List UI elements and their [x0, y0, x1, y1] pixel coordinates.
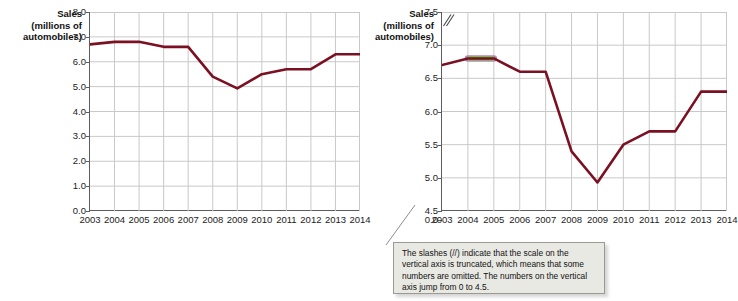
- left-y-tick-label: 3.0: [73, 132, 86, 142]
- left-x-tick-label: 2003: [79, 215, 100, 225]
- right-y-tick-label: 6.0: [425, 107, 438, 117]
- left-x-tick-label: 2013: [325, 215, 346, 225]
- right-chart-plot-area: 0.04.55.05.56.06.57.07.52003200420052006…: [441, 12, 726, 211]
- right-y-tick-mark: [438, 78, 442, 79]
- left-x-tick-label: 2007: [178, 215, 199, 225]
- left-y-tick-mark: [86, 37, 90, 38]
- left-x-tick-label: 2011: [276, 215, 296, 225]
- left-y-tick-label: 5.0: [73, 82, 86, 92]
- left-y-tick-mark: [86, 112, 90, 113]
- right-y-tick-mark: [438, 211, 442, 212]
- right-x-tick-label: 2005: [483, 215, 504, 225]
- left-x-tick-label: 2008: [202, 215, 223, 225]
- left-y-tick-mark: [86, 62, 90, 63]
- right-chart-y-axis-title: Sales (millions of automobiles): [352, 8, 434, 43]
- right-x-tick-label: 2012: [665, 215, 686, 225]
- right-y-tick-mark: [438, 112, 442, 113]
- left-x-tick-label: 2004: [104, 215, 125, 225]
- right-y-tick-mark: [438, 145, 442, 146]
- right-x-tick-label: 2003: [431, 215, 452, 225]
- right-x-tick-label: 2011: [639, 215, 659, 225]
- left-y-tick-label: 2.0: [73, 157, 86, 167]
- right-x-tick-label: 2009: [587, 215, 608, 225]
- callout-text: The slashes (//) indicate that the scale…: [402, 248, 587, 292]
- left-x-tick-label: 2010: [251, 215, 272, 225]
- right-x-tick-label: 2004: [457, 215, 478, 225]
- left-x-tick-label: 2009: [227, 215, 248, 225]
- right-chart-svg: [442, 12, 727, 211]
- left-chart-plot-area: 0.01.02.03.04.05.06.07.08.02003200420052…: [89, 12, 359, 211]
- right-y-tick-label: 7.5: [425, 7, 438, 17]
- right-y-tick-label: 7.0: [425, 40, 438, 50]
- right-y-title-line-1: Sales: [352, 8, 434, 20]
- left-y-tick-label: 7.0: [73, 32, 86, 42]
- left-chart-panel: Sales (millions of automobiles) 0.01.02.…: [0, 0, 366, 240]
- left-y-tick-label: 8.0: [73, 7, 86, 17]
- left-x-tick-label: 2012: [300, 215, 321, 225]
- right-x-tick-label: 2006: [509, 215, 530, 225]
- right-x-tick-label: 2014: [716, 215, 737, 225]
- left-y-tick-label: 1.0: [73, 181, 86, 191]
- left-y-tick-mark: [86, 211, 90, 212]
- left-y-title-line-2: (millions of: [0, 20, 82, 32]
- right-y-tick-label: 5.5: [425, 140, 438, 150]
- left-y-tick-label: 6.0: [73, 57, 86, 67]
- left-y-tick-mark: [86, 186, 90, 187]
- right-y-tick-mark: [438, 45, 442, 46]
- right-y-tick-mark: [438, 178, 442, 179]
- left-y-title-line-3: automobiles): [0, 31, 82, 43]
- right-x-tick-label: 2010: [613, 215, 634, 225]
- left-x-tick-label: 2006: [153, 215, 174, 225]
- left-y-tick-mark: [86, 161, 90, 162]
- left-y-tick-mark: [86, 12, 90, 13]
- left-y-tick-mark: [86, 136, 90, 137]
- right-chart-panel: Sales (millions of automobiles) 0.04.55.…: [366, 0, 734, 240]
- right-y-title-line-2: (millions of: [352, 20, 434, 32]
- right-y-tick-label: 6.5: [425, 74, 438, 84]
- left-y-tick-label: 4.0: [73, 107, 86, 117]
- left-x-tick-label: 2005: [129, 215, 150, 225]
- left-y-title-line-1: Sales: [0, 8, 82, 20]
- left-chart-svg: [90, 12, 360, 211]
- left-chart-y-axis-title: Sales (millions of automobiles): [0, 8, 82, 43]
- right-y-tick-mark: [438, 12, 442, 13]
- right-y-tick-label: 5.0: [425, 173, 438, 183]
- callout-box: The slashes (//) indicate that the scale…: [393, 242, 605, 294]
- right-y-title-line-3: automobiles): [352, 31, 434, 43]
- right-x-tick-label: 2007: [535, 215, 556, 225]
- left-y-tick-mark: [86, 87, 90, 88]
- right-x-tick-label: 2013: [691, 215, 712, 225]
- right-x-tick-label: 2008: [561, 215, 582, 225]
